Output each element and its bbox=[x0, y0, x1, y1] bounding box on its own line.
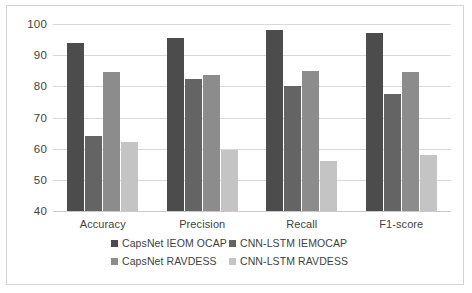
legend-item[interactable]: CapsNet RAVDESS bbox=[111, 255, 229, 267]
legend-row: CapsNet RAVDESSCNN-LSTM RAVDESS bbox=[111, 255, 359, 267]
legend-swatch-icon bbox=[229, 240, 236, 247]
legend-row: CapsNet IEOM OCAPCNN-LSTM IEMOCAP bbox=[111, 237, 359, 249]
x-axis-tick-label: Accuracy bbox=[53, 218, 153, 230]
bar bbox=[284, 86, 301, 211]
bar bbox=[167, 38, 184, 211]
gridline bbox=[53, 211, 451, 212]
legend-item[interactable]: CapsNet IEOM OCAP bbox=[111, 237, 229, 249]
legend-item[interactable]: CNN-LSTM RAVDESS bbox=[229, 255, 359, 267]
bar-group: Recall bbox=[252, 24, 352, 211]
bar bbox=[384, 94, 401, 211]
bar bbox=[302, 71, 319, 211]
legend-swatch-icon bbox=[111, 258, 118, 265]
bar-group: Accuracy bbox=[53, 24, 153, 211]
y-axis-tick-label: 40 bbox=[34, 205, 47, 217]
legend-label: CNN-LSTM IEMOCAP bbox=[240, 237, 347, 249]
legend-swatch-icon bbox=[229, 258, 236, 265]
bar bbox=[103, 72, 120, 211]
chart-figure: 100908070605040 AccuracyPrecisionRecallF… bbox=[6, 5, 464, 285]
bar bbox=[402, 72, 419, 211]
bar bbox=[185, 79, 202, 211]
legend-label: CapsNet IEOM OCAP bbox=[122, 237, 227, 249]
bar bbox=[221, 150, 238, 211]
legend-swatch-icon bbox=[111, 240, 118, 247]
legend-item[interactable]: CNN-LSTM IEMOCAP bbox=[229, 237, 359, 249]
y-axis-tick-label: 80 bbox=[34, 80, 47, 92]
bar bbox=[85, 136, 102, 211]
bar bbox=[320, 161, 337, 211]
y-axis-tick-label: 60 bbox=[34, 143, 47, 155]
bar bbox=[266, 30, 283, 211]
bar-group: F1-score bbox=[352, 24, 452, 211]
y-axis-tick-label: 90 bbox=[34, 49, 47, 61]
plot-area: 100908070605040 AccuracyPrecisionRecallF… bbox=[53, 24, 451, 211]
bar bbox=[366, 33, 383, 211]
y-axis-tick-label: 50 bbox=[34, 174, 47, 186]
y-axis-tick-label: 70 bbox=[34, 112, 47, 124]
x-axis-tick-label: Recall bbox=[252, 218, 352, 230]
bar bbox=[203, 75, 220, 211]
legend-label: CapsNet RAVDESS bbox=[122, 255, 217, 267]
bar bbox=[121, 142, 138, 211]
x-axis-tick-label: Precision bbox=[153, 218, 253, 230]
chart-legend: CapsNet IEOM OCAPCNN-LSTM IEMOCAPCapsNet… bbox=[7, 237, 463, 267]
y-axis-tick-label: 100 bbox=[27, 18, 47, 30]
bar-groups: AccuracyPrecisionRecallF1-score bbox=[53, 24, 451, 211]
x-axis-tick-label: F1-score bbox=[352, 218, 452, 230]
bar bbox=[420, 155, 437, 211]
legend-label: CNN-LSTM RAVDESS bbox=[240, 255, 348, 267]
bar-group: Precision bbox=[153, 24, 253, 211]
bar bbox=[67, 43, 84, 211]
